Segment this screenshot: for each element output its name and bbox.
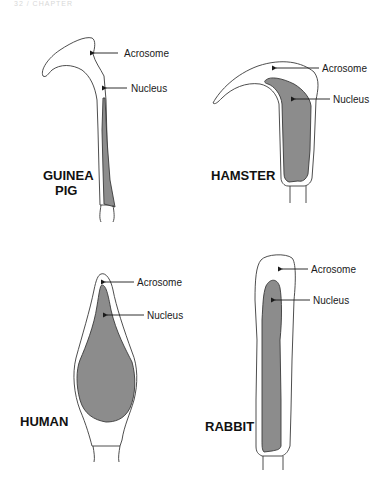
panel-hamster: Acrosome Nucleus HAMSTER: [211, 62, 369, 203]
panel-human: Acrosome Nucleus HUMAN: [20, 274, 183, 462]
guinea-pig-acrosome-label: Acrosome: [124, 48, 169, 59]
hamster-tail: [290, 186, 306, 203]
human-nucleus: [77, 285, 135, 422]
sperm-head-diagram: Acrosome Nucleus GUINEA PIG Acrosome Nuc…: [0, 0, 385, 482]
hamster-nucleus: [265, 78, 311, 182]
rabbit-tail: [263, 456, 283, 470]
hamster-nucleus-label: Nucleus: [333, 94, 369, 105]
rabbit-nucleus: [262, 280, 282, 452]
human-nucleus-label: Nucleus: [147, 310, 183, 321]
panel-guinea-pig: Acrosome Nucleus GUINEA PIG: [42, 38, 169, 222]
human-tail: [93, 446, 120, 462]
guinea-pig-tail: [100, 205, 114, 222]
human-species-label: HUMAN: [20, 414, 68, 429]
human-acrosome-label: Acrosome: [137, 277, 182, 288]
guinea-pig-species-label: GUINEA: [43, 168, 94, 183]
guinea-pig-nucleus: [102, 98, 115, 207]
rabbit-species-label: RABBIT: [205, 419, 254, 434]
hamster-acrosome-label: Acrosome: [322, 63, 367, 74]
hamster-species-label: HAMSTER: [211, 168, 276, 183]
rabbit-nucleus-label: Nucleus: [313, 295, 349, 306]
panel-rabbit: Acrosome Nucleus RABBIT: [205, 255, 356, 470]
rabbit-acrosome-label: Acrosome: [311, 264, 356, 275]
guinea-pig-species-label-line2: PIG: [55, 183, 77, 198]
guinea-pig-nucleus-label: Nucleus: [131, 83, 167, 94]
